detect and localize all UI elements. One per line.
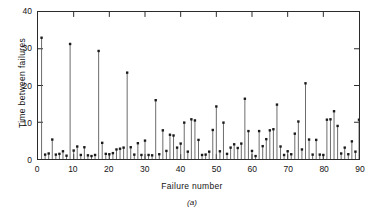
data-point-marker [48, 152, 50, 154]
data-point-marker [130, 146, 132, 148]
data-point-marker [179, 142, 181, 144]
data-point-marker [212, 129, 214, 131]
data-point-marker [208, 150, 210, 152]
data-point-marker [336, 125, 338, 127]
x-tick-label: 10 [68, 164, 77, 174]
plot-area [37, 11, 360, 160]
data-point-marker [162, 129, 164, 131]
data-point-marker [222, 121, 224, 123]
data-point-marker [172, 134, 174, 136]
data-point-marker [69, 43, 71, 45]
data-point-marker [65, 155, 67, 157]
data-point-marker [40, 37, 42, 39]
data-point-marker [158, 153, 160, 155]
data-point-marker [58, 153, 60, 155]
x-tick-label: 40 [176, 164, 185, 174]
data-point-marker [315, 139, 317, 141]
data-point-marker [119, 148, 121, 150]
data-point-marker [290, 153, 292, 155]
x-tick-label: 30 [140, 164, 149, 174]
data-point-marker [358, 118, 359, 120]
data-point-marker [176, 146, 178, 148]
data-point-marker [265, 138, 267, 140]
data-point-marker [272, 128, 274, 130]
data-point-marker [87, 154, 89, 156]
data-point-marker [105, 153, 107, 155]
data-point-marker [215, 105, 217, 107]
data-point-marker [51, 138, 53, 140]
data-point-marker [190, 118, 192, 120]
data-point-marker [294, 132, 296, 134]
y-tick-label: 40 [2, 6, 32, 16]
data-point-marker [194, 119, 196, 121]
data-point-marker [244, 98, 246, 100]
x-tick-label: 0 [35, 164, 40, 174]
data-point-marker [276, 103, 278, 105]
data-point-marker [311, 153, 313, 155]
data-point-marker [147, 154, 149, 156]
data-point-marker [108, 153, 110, 155]
data-point-marker [319, 153, 321, 155]
x-tick-label: 80 [319, 164, 328, 174]
data-point-marker [169, 134, 171, 136]
x-tick-label: 50 [212, 164, 221, 174]
data-point-marker [83, 146, 85, 148]
data-point-marker [262, 145, 264, 147]
data-point-marker [233, 143, 235, 145]
data-point-marker [351, 140, 353, 142]
data-point-marker [237, 147, 239, 149]
data-point-marker [137, 142, 139, 144]
data-point-marker [354, 150, 356, 152]
x-tick-label: 90 [355, 164, 364, 174]
y-tick-label: 10 [2, 118, 32, 128]
data-point-marker [322, 154, 324, 156]
data-point-marker [140, 154, 142, 156]
data-point-marker [226, 153, 228, 155]
data-point-marker [165, 150, 167, 152]
data-point-marker [44, 153, 46, 155]
data-point-marker [90, 155, 92, 157]
data-point-marker [304, 82, 306, 84]
data-point-marker [247, 130, 249, 132]
data-point-marker [112, 152, 114, 154]
data-point-marker [204, 153, 206, 155]
data-point-marker [229, 146, 231, 148]
data-point-marker [94, 154, 96, 156]
data-point-marker [344, 146, 346, 148]
data-point-marker [240, 142, 242, 144]
data-point-marker [329, 118, 331, 120]
data-point-marker [115, 148, 117, 150]
x-axis-title: Failure number [0, 181, 384, 191]
y-tick-label: 30 [2, 43, 32, 53]
figure-caption: (a) [0, 198, 384, 207]
data-point-marker [301, 148, 303, 150]
data-point-marker [279, 145, 281, 147]
data-point-marker [258, 130, 260, 132]
data-point-marker [251, 150, 253, 152]
data-point-marker [76, 145, 78, 147]
data-point-marker [62, 150, 64, 152]
x-tick-label: 20 [104, 164, 113, 174]
data-point-marker [133, 153, 135, 155]
data-point-marker [101, 142, 103, 144]
data-point-marker [347, 153, 349, 155]
y-tick-label: 20 [2, 81, 32, 91]
data-point-marker [297, 120, 299, 122]
data-point-marker [197, 139, 199, 141]
data-point-marker [269, 129, 271, 131]
data-point-marker [144, 139, 146, 141]
data-point-marker [151, 154, 153, 156]
data-point-marker [308, 138, 310, 140]
data-point-marker [55, 153, 57, 155]
data-series [40, 37, 359, 159]
data-point-marker [155, 99, 157, 101]
data-point-marker [254, 155, 256, 157]
data-point-marker [286, 150, 288, 152]
data-point-marker [126, 71, 128, 73]
data-point-marker [183, 121, 185, 123]
data-point-marker [80, 154, 82, 156]
data-point-marker [340, 152, 342, 154]
data-point-marker [122, 146, 124, 148]
data-point-marker [333, 110, 335, 112]
figure-container: Time between failures 010203040 01020304… [0, 0, 384, 213]
